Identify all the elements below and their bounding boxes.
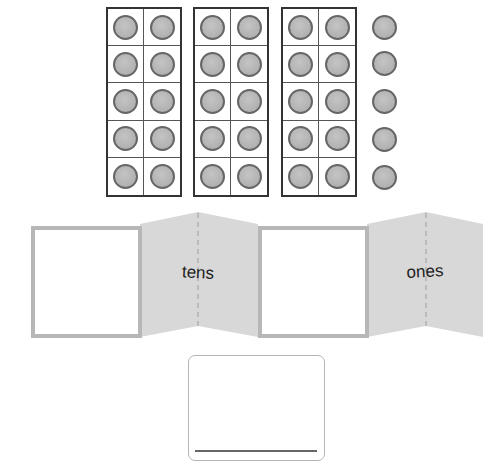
ones-label: ones — [385, 260, 466, 284]
answer-line — [195, 450, 317, 452]
tens-label: tens — [158, 261, 239, 285]
tens-answer-box[interactable] — [31, 226, 142, 338]
total-answer-box[interactable] — [188, 355, 325, 461]
ones-answer-box[interactable] — [258, 226, 369, 338]
